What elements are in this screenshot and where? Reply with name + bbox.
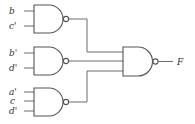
label-d-prime: d'	[9, 63, 17, 73]
inversion-bubble	[63, 99, 68, 104]
nand-body	[34, 88, 63, 116]
nand-gate-2	[24, 47, 69, 75]
label-b: b	[9, 6, 15, 16]
inversion-bubble	[63, 58, 68, 63]
label-output-f: F	[176, 57, 184, 67]
nand-gate-1	[24, 5, 69, 33]
nand-gate-output	[123, 47, 173, 76]
nand-body	[123, 47, 153, 76]
label-d-prime-2: d'	[9, 106, 17, 116]
inversion-bubble	[63, 16, 68, 21]
inversion-bubble	[153, 59, 158, 64]
label-b-prime: b'	[9, 48, 17, 58]
logic-circuit-diagram: b c' b' d' a' c d' F	[0, 0, 195, 124]
wire-g1-to-g4	[69, 19, 123, 52]
nand-gate-3	[24, 88, 69, 116]
nand-body	[34, 47, 63, 75]
label-c-prime: c'	[9, 21, 17, 31]
label-c: c	[10, 96, 15, 106]
wire-g3-to-g4	[69, 71, 123, 102]
nand-body	[34, 5, 63, 33]
